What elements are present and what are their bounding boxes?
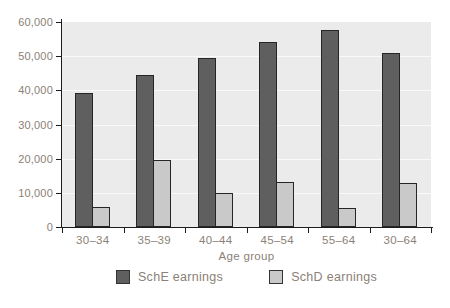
y-axis-tick	[56, 227, 62, 228]
earnings-bar-chart: Age group SchE earningsSchD earnings 30–…	[0, 0, 450, 308]
y-axis-tick	[56, 125, 62, 126]
x-axis-tick	[431, 228, 432, 233]
x-axis-tick	[124, 228, 125, 233]
y-tick-label: 10,000	[0, 187, 53, 199]
y-tick-label: 0	[0, 221, 53, 233]
x-axis-title: Age group	[62, 250, 431, 262]
bar-sche-45-54	[259, 42, 277, 227]
gridline	[62, 125, 431, 126]
y-axis-tick	[56, 193, 62, 194]
x-tick-label: 30–64	[370, 234, 432, 246]
bar-sche-35-39	[136, 75, 154, 227]
gridline	[62, 159, 431, 160]
x-tick-label: 30–34	[62, 234, 124, 246]
legend: SchE earningsSchD earnings	[62, 269, 431, 285]
bar-sche-30-64	[382, 53, 400, 227]
y-axis-tick	[56, 22, 62, 23]
x-tick-label: 35–39	[124, 234, 186, 246]
gridline	[62, 193, 431, 194]
plot-area	[62, 22, 431, 227]
legend-entry: SchD earnings	[269, 270, 377, 284]
y-tick-label: 50,000	[0, 50, 53, 62]
y-tick-label: 60,000	[0, 16, 53, 28]
bar-schd-45-54	[276, 182, 294, 227]
x-axis-tick	[308, 228, 309, 233]
legend-label: SchE earnings	[138, 270, 223, 284]
bar-schd-35-39	[153, 160, 171, 227]
y-axis-line	[61, 19, 62, 228]
schd-swatch-icon	[269, 270, 283, 284]
bar-sche-55-64	[321, 30, 339, 227]
x-axis-tick	[185, 228, 186, 233]
legend-label: SchD earnings	[291, 270, 377, 284]
bar-schd-30-34	[92, 207, 110, 227]
gridline	[62, 56, 431, 57]
bar-sche-30-34	[75, 93, 93, 227]
bar-schd-40-44	[215, 193, 233, 227]
y-tick-label: 40,000	[0, 84, 53, 96]
bar-schd-30-64	[399, 183, 417, 227]
gridline	[62, 90, 431, 91]
x-tick-label: 40–44	[185, 234, 247, 246]
x-axis-tick	[370, 228, 371, 233]
x-tick-label: 55–64	[308, 234, 370, 246]
y-tick-label: 30,000	[0, 119, 53, 131]
y-axis-tick	[56, 90, 62, 91]
y-axis-tick	[56, 56, 62, 57]
bar-schd-55-64	[338, 208, 356, 227]
legend-entry: SchE earnings	[116, 270, 223, 284]
x-axis-tick	[247, 228, 248, 233]
y-axis-tick	[56, 159, 62, 160]
x-tick-label: 45–54	[247, 234, 309, 246]
y-tick-label: 20,000	[0, 153, 53, 165]
x-axis-tick	[62, 228, 63, 233]
sche-swatch-icon	[116, 270, 130, 284]
bar-sche-40-44	[198, 58, 216, 227]
